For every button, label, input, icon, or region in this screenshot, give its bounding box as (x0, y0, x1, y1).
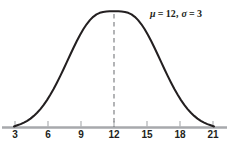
annotation-separator: , (176, 8, 179, 19)
sigma-equals: = (189, 8, 195, 19)
x-tick-label-9: 9 (70, 129, 92, 141)
normal-distribution-figure: 3 6 9 12 15 18 21 μ=12, σ=3 (0, 0, 229, 144)
x-tick-label-3: 3 (4, 129, 26, 141)
mu-symbol: μ (150, 8, 156, 19)
parameters-annotation: μ=12, σ=3 (150, 8, 202, 19)
mu-equals: = (158, 8, 164, 19)
mu-value: 12 (166, 8, 176, 19)
plot-area (0, 0, 229, 144)
x-tick-label-12: 12 (103, 129, 125, 141)
x-tick-label-6: 6 (37, 129, 59, 141)
x-tick-label-18: 18 (169, 129, 191, 141)
normal-curve (14, 11, 214, 126)
x-tick-label-21: 21 (202, 129, 224, 141)
sigma-value: 3 (197, 8, 202, 19)
x-tick-label-15: 15 (136, 129, 158, 141)
sigma-symbol: σ (181, 8, 187, 19)
